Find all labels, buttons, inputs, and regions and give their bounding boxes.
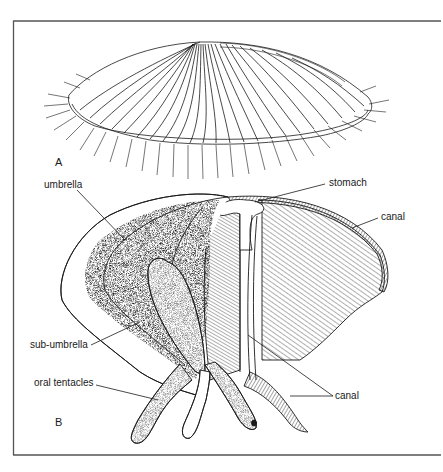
label-stomach: stomach (329, 178, 367, 188)
jellyfish-diagram (0, 0, 443, 472)
jellyfish-a-illustration (44, 42, 389, 179)
label-sub-umbrella: sub-umbrella (30, 340, 88, 350)
label-oral-tentacles: oral tentacles (34, 378, 93, 388)
label-umbrella: umbrella (44, 180, 82, 190)
jellyfish-b-illustration (61, 194, 388, 443)
panel-label-a: A (55, 157, 62, 168)
label-canal-upper: canal (381, 212, 405, 222)
label-canal-lower: canal (335, 391, 359, 401)
panel-label-b: B (55, 417, 62, 428)
